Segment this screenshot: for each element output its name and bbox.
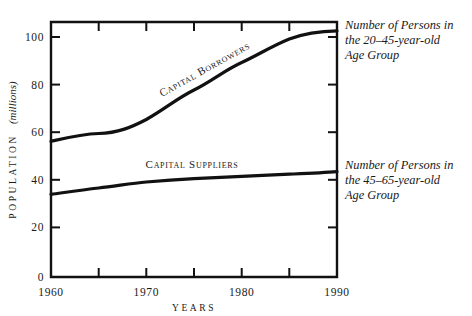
y-tick-label: 60 [31, 126, 44, 138]
y-axis-ticks [51, 37, 60, 227]
series-line-capital-suppliers [51, 172, 337, 195]
svg-text:POPULATION (millions): POPULATION (millions) [2, 81, 19, 219]
y-tick-label: 100 [25, 31, 44, 43]
x-tick-label: 1990 [324, 286, 349, 298]
annotation-suppliers: Number of Persons in the 45–65-year-old … [345, 158, 472, 204]
y-tick-label: 40 [31, 174, 44, 186]
plot-frame [51, 22, 337, 277]
y-axis-title-units: (millions) [6, 81, 19, 124]
axis-box [51, 22, 337, 277]
x-tick-labels: 1960 1970 1980 1990 [38, 286, 349, 298]
chart-figure: 100 80 60 40 20 0 1960 1970 1980 1990 YE… [0, 0, 472, 316]
x-tick-label: 1960 [38, 286, 63, 298]
series-line-capital-borrowers [51, 31, 337, 142]
y-tick-label: 20 [31, 221, 44, 233]
y-axis-title-main: POPULATION [8, 134, 18, 219]
series-label-text: Capital Borrowers [157, 39, 252, 99]
y-tick-label: 80 [31, 79, 44, 91]
x-tick-label: 1980 [229, 286, 254, 298]
y-tick-labels: 100 80 60 40 20 0 [25, 31, 44, 283]
y-axis-title: POPULATION (millions) [2, 81, 19, 219]
annotation-borrowers: Number of Persons in the 20–45-year-old … [345, 18, 472, 64]
y-axis-ticks-right [328, 37, 337, 227]
x-axis-ticks-top [99, 22, 290, 31]
series-label-capital-suppliers: Capital Suppliers [146, 158, 239, 170]
series-label-capital-borrowers: Capital Borrowers [157, 39, 252, 99]
x-axis-ticks [99, 268, 290, 277]
x-axis-title: YEARS [172, 303, 216, 313]
x-tick-label: 1970 [134, 286, 159, 298]
y-tick-label: 0 [38, 271, 44, 283]
